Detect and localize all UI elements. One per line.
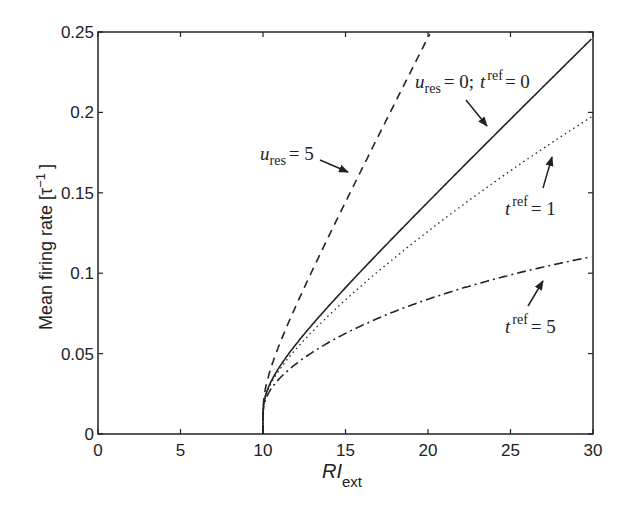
x-tick-label: 0 — [93, 441, 102, 460]
annotation-dotted: tref= 1 — [505, 194, 556, 219]
y-axis-label: Mean firing rate [τ−1] — [33, 164, 56, 330]
x-tick-label: 30 — [584, 441, 603, 460]
y-tick-label: 0.25 — [61, 23, 94, 42]
x-tick-label: 10 — [254, 441, 273, 460]
arrow-dotted — [543, 157, 552, 188]
x-axis: 051015202530 — [93, 32, 602, 460]
y-tick-label: 0.05 — [61, 345, 94, 364]
y-tick-label: 0 — [85, 425, 94, 444]
series-line-dashed — [263, 34, 430, 434]
arrow-solid — [466, 100, 487, 126]
y-tick-label: 0.2 — [70, 103, 94, 122]
x-tick-label: 25 — [501, 441, 520, 460]
series-line-dotted — [263, 117, 591, 434]
y-tick-label: 0.1 — [70, 264, 94, 283]
annotation-solid: ures= 0;tref= 0 — [415, 68, 530, 96]
arrow-dashdot — [528, 281, 543, 306]
arrow-dashed — [320, 160, 348, 172]
x-tick-label: 15 — [336, 441, 355, 460]
series-line-solid — [263, 39, 591, 434]
x-axis-label: RIext — [322, 460, 363, 490]
annotation-dashed: ures= 5 — [260, 143, 314, 168]
x-tick-label: 5 — [176, 441, 185, 460]
plot-frame — [98, 32, 593, 434]
y-tick-label: 0.15 — [61, 184, 94, 203]
x-tick-label: 20 — [419, 441, 438, 460]
firing-rate-chart: 051015202530 00.050.10.150.20.25 Mean fi… — [0, 0, 628, 514]
annotation-dashdot: tref= 5 — [505, 312, 556, 337]
